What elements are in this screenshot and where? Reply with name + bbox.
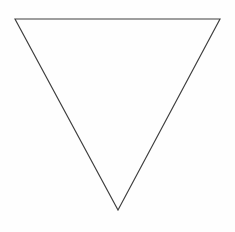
triangle-figure [0, 0, 235, 232]
drawing-canvas [0, 0, 235, 232]
inverted-triangle-outline [15, 19, 220, 210]
